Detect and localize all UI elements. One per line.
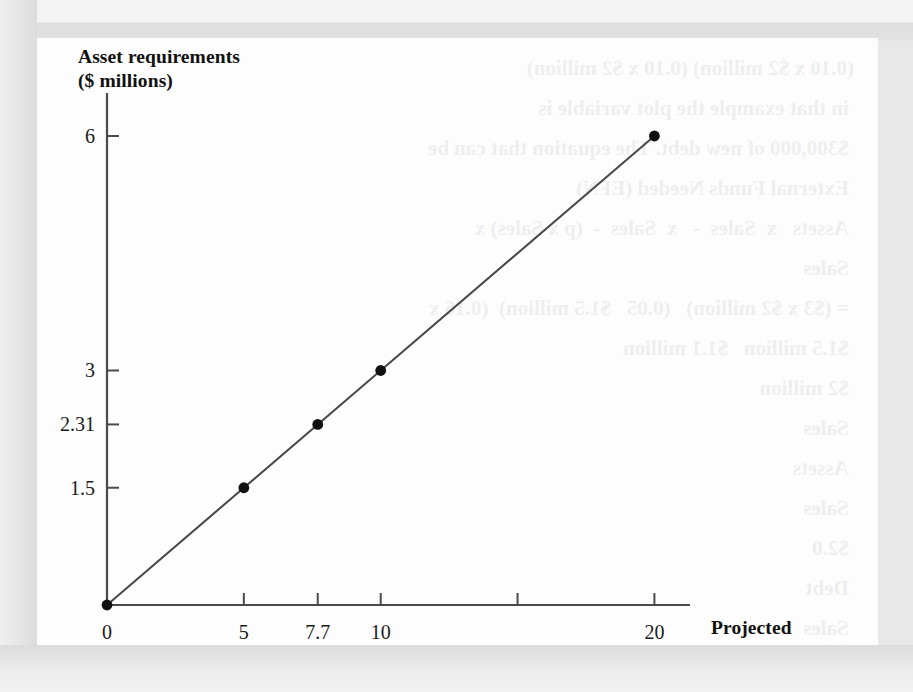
page-bottom-margin: [0, 645, 913, 692]
x-axis-title: Projected sales growth (%): [711, 616, 853, 645]
data-point: [102, 600, 113, 611]
chart-render: [102, 93, 690, 610]
x-tick-label: 7.7: [305, 621, 330, 644]
data-point: [649, 131, 660, 142]
y-tick-label: 3: [85, 359, 95, 382]
x-tick-label: 20: [644, 621, 664, 644]
y-tick-label: 6: [85, 124, 95, 147]
y-tick-label: 2.31: [60, 413, 95, 436]
line-chart: [37, 38, 878, 645]
x-tick-label: 10: [371, 621, 391, 644]
y-tick-label: 1.5: [70, 476, 95, 499]
figure-panel: (0.10 x $2 million) (0.10 x $2 million) …: [37, 38, 878, 645]
x-tick-label: 5: [239, 621, 249, 644]
x-tick-label: 0: [102, 621, 112, 644]
y-axis-title: Asset requirements ($ millions): [78, 45, 240, 93]
data-point: [312, 419, 323, 430]
data-point: [238, 482, 249, 493]
data-point: [375, 365, 386, 376]
page-left-margin: [0, 0, 37, 692]
